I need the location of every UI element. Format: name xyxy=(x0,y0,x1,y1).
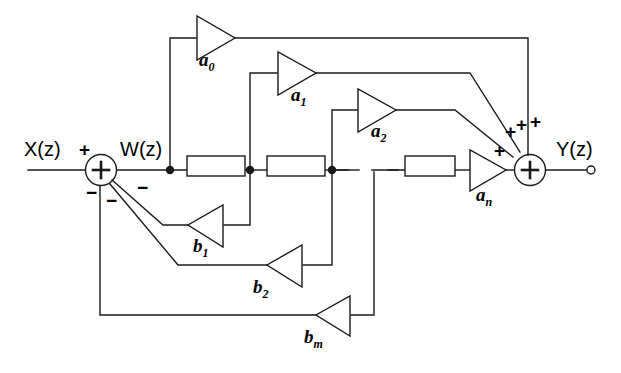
sign-minus-bm: − xyxy=(86,183,97,202)
output-terminal xyxy=(587,166,595,174)
label-coef-an: an xyxy=(476,185,492,208)
wire-b1-to-adder xyxy=(112,180,188,225)
sign-plus-a0: + xyxy=(530,112,541,131)
label-coef-bm-sub: m xyxy=(314,337,323,351)
label-coef-a1-sub: 1 xyxy=(301,95,307,109)
wire-b1-tap xyxy=(224,170,250,225)
label-coef-a1: a1 xyxy=(291,85,307,108)
label-coef-b1-base: b xyxy=(193,235,203,256)
sign-minus-b1: − xyxy=(137,178,148,197)
label-w-signal: W(z) xyxy=(120,139,162,159)
triangle-b2 xyxy=(267,245,302,287)
label-coef-b2: b2 xyxy=(253,277,269,300)
sign-plus-an: + xyxy=(494,141,505,160)
label-coef-b2-base: b xyxy=(253,276,263,297)
label-coef-a0-sub: 0 xyxy=(209,60,215,74)
wire-b2-tap xyxy=(303,170,332,265)
sign-plus-a2: + xyxy=(505,122,516,141)
label-coef-an-base: a xyxy=(476,184,486,205)
delay-block-2 xyxy=(267,156,325,176)
label-input-signal: X(z) xyxy=(24,139,61,159)
label-coef-bm: bm xyxy=(304,327,323,350)
delay-block-3 xyxy=(405,156,455,176)
label-coef-b1: b1 xyxy=(193,236,209,259)
wire-a0-riser xyxy=(170,38,196,170)
label-coef-b2-sub: 2 xyxy=(263,287,269,301)
label-coef-a0: a0 xyxy=(199,50,215,73)
label-input-plus: + xyxy=(79,140,90,159)
label-coef-an-sub: n xyxy=(486,195,493,209)
label-coef-b1-sub: 1 xyxy=(203,246,209,260)
sign-minus-b2: − xyxy=(106,191,117,210)
label-coef-a2: a2 xyxy=(371,121,387,144)
label-coef-a0-base: a xyxy=(199,49,209,70)
label-output-signal: Y(z) xyxy=(556,139,593,159)
label-coef-a2-base: a xyxy=(371,120,381,141)
delay-block-1 xyxy=(187,156,245,176)
label-coef-bm-base: b xyxy=(304,326,314,347)
label-coef-a2-sub: 2 xyxy=(381,131,387,145)
wire-a1-to-adder xyxy=(316,73,520,152)
sign-plus-a1: + xyxy=(516,115,527,134)
label-coef-a1-base: a xyxy=(291,84,301,105)
signal-flow-diagram: X(z) + W(z) Y(z) − − − + + + + a0 a1 a2 … xyxy=(0,0,621,373)
wire-a2-riser xyxy=(332,110,357,170)
wire-bm-tap xyxy=(351,172,374,315)
